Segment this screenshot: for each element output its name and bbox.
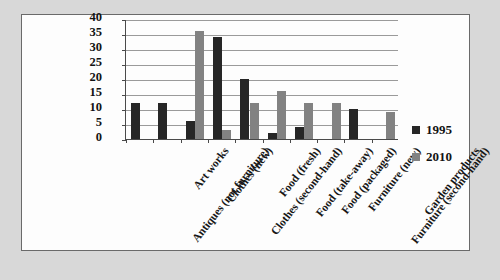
y-tick-label: 35: [70, 25, 102, 39]
chart-page: 4035302520151050 Antiques (not furniture…: [0, 0, 500, 280]
x-tick-label: Clothes (new): [225, 145, 275, 204]
plot-wrapper: 4035302520151050: [104, 20, 398, 140]
bar-group: [126, 20, 153, 139]
y-tick-label: 10: [70, 100, 102, 114]
y-tick-label: 25: [70, 55, 102, 69]
bar-group: [344, 20, 371, 139]
bar-2010[interactable]: [386, 112, 395, 139]
y-tick-label: 40: [70, 10, 102, 24]
y-tick-label: 15: [70, 85, 102, 99]
bar-1995[interactable]: [131, 103, 140, 139]
bar-2010[interactable]: [304, 103, 313, 139]
plot-area: [125, 20, 398, 140]
bar-group: [153, 20, 180, 139]
legend-item-2010[interactable]: 2010: [412, 150, 482, 164]
bar-group: [372, 20, 399, 139]
legend-item-1995[interactable]: 1995: [412, 123, 482, 137]
bar-group: [235, 20, 262, 139]
bar-group: [317, 20, 344, 139]
chart-legend: 1995 2010: [412, 123, 482, 177]
y-tick-label: 30: [70, 40, 102, 54]
bar-1995[interactable]: [186, 121, 195, 139]
legend-label-1995: 1995: [426, 123, 452, 137]
bar-group: [208, 20, 235, 139]
y-tick-label: 20: [70, 70, 102, 84]
bar-1995[interactable]: [268, 133, 277, 139]
bar-1995[interactable]: [295, 127, 304, 139]
bar-1995[interactable]: [213, 37, 222, 139]
x-axis-tick-labels: Antiques (not furniture)Art worksClothes…: [104, 143, 424, 251]
y-tick-label: 5: [70, 115, 102, 129]
y-tick-label: 0: [70, 130, 102, 144]
y-axis-tick-labels: 4035302520151050: [70, 12, 102, 148]
bar-1995[interactable]: [349, 109, 358, 139]
x-tick-label: Art works: [191, 145, 231, 191]
bar-2010[interactable]: [332, 103, 341, 139]
bar-2010[interactable]: [250, 103, 259, 139]
bar-1995[interactable]: [158, 103, 167, 139]
bar-2010[interactable]: [222, 130, 231, 139]
bar-group: [290, 20, 317, 139]
bar-2010[interactable]: [277, 91, 286, 139]
legend-label-2010: 2010: [426, 150, 452, 164]
chart-panel: 4035302520151050 Antiques (not furniture…: [21, 14, 470, 251]
bar-2010[interactable]: [195, 31, 204, 139]
legend-swatch-2010-icon: [412, 153, 420, 161]
bar-group: [181, 20, 208, 139]
legend-swatch-1995-icon: [412, 126, 420, 134]
bar-group: [263, 20, 290, 139]
bar-1995[interactable]: [240, 79, 249, 139]
